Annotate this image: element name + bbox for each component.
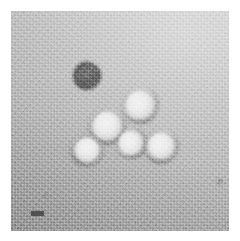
scale-bar <box>31 211 44 216</box>
film-grain-layer-3 <box>11 11 229 231</box>
micrograph-plate <box>11 11 229 231</box>
micrograph-screenshot <box>0 0 240 241</box>
